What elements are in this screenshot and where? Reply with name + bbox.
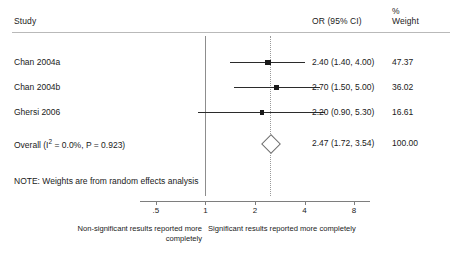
- overall-weight-value-text: 100.00: [392, 138, 418, 148]
- footer-label-right: Significant results reported more comple…: [208, 224, 358, 234]
- x-axis-tick-mark: [255, 201, 256, 205]
- pooled-estimate-diamond: [261, 134, 281, 154]
- study-label: Ghersi 2006: [14, 107, 60, 117]
- column-header-study: Study: [14, 16, 36, 26]
- note-text: NOTE: Weights are from random effects an…: [14, 176, 198, 186]
- x-axis-tick-label: 8: [343, 206, 365, 215]
- x-axis-tick-label: .5: [145, 206, 167, 215]
- or-value-text: 2.70 (1.50, 5.00): [312, 82, 374, 92]
- weight-value-text: 36.02: [392, 82, 413, 92]
- null-effect-line: [205, 36, 206, 196]
- column-header-or: OR (95% CI): [312, 16, 362, 26]
- x-axis-tick-label: 2: [244, 206, 266, 215]
- effect-size-marker: [260, 110, 265, 115]
- or-value-text: 2.40 (1.40, 4.00): [312, 57, 374, 67]
- effect-size-marker: [274, 85, 279, 90]
- x-axis-tick-label: 1: [194, 206, 216, 215]
- overall-label: Overall (I2 = 0.0%, P = 0.923): [14, 138, 125, 150]
- effect-size-marker: [265, 60, 271, 66]
- column-header-weight: Weight: [392, 16, 419, 26]
- study-label: Chan 2004b: [14, 82, 60, 92]
- x-axis-tick-mark: [354, 201, 355, 205]
- or-value-text: 2.20 (0.90, 5.30): [312, 107, 374, 117]
- weight-value-text: 16.61: [392, 107, 413, 117]
- x-axis-tick-label: 4: [294, 206, 316, 215]
- footer-label-left: Non-significant results reported more co…: [62, 224, 202, 244]
- x-axis-tick-mark: [305, 201, 306, 205]
- header-divider: [12, 32, 450, 33]
- x-axis-tick-mark: [156, 201, 157, 205]
- weight-value-text: 47.37: [392, 57, 413, 67]
- column-header-percent: %: [392, 6, 400, 16]
- x-axis-tick-mark: [205, 201, 206, 205]
- overall-or-value-text: 2.47 (1.72, 3.54): [312, 138, 374, 148]
- forest-plot: Study OR (95% CI) % Weight Chan 2004a2.4…: [0, 0, 463, 256]
- study-label: Chan 2004a: [14, 57, 60, 67]
